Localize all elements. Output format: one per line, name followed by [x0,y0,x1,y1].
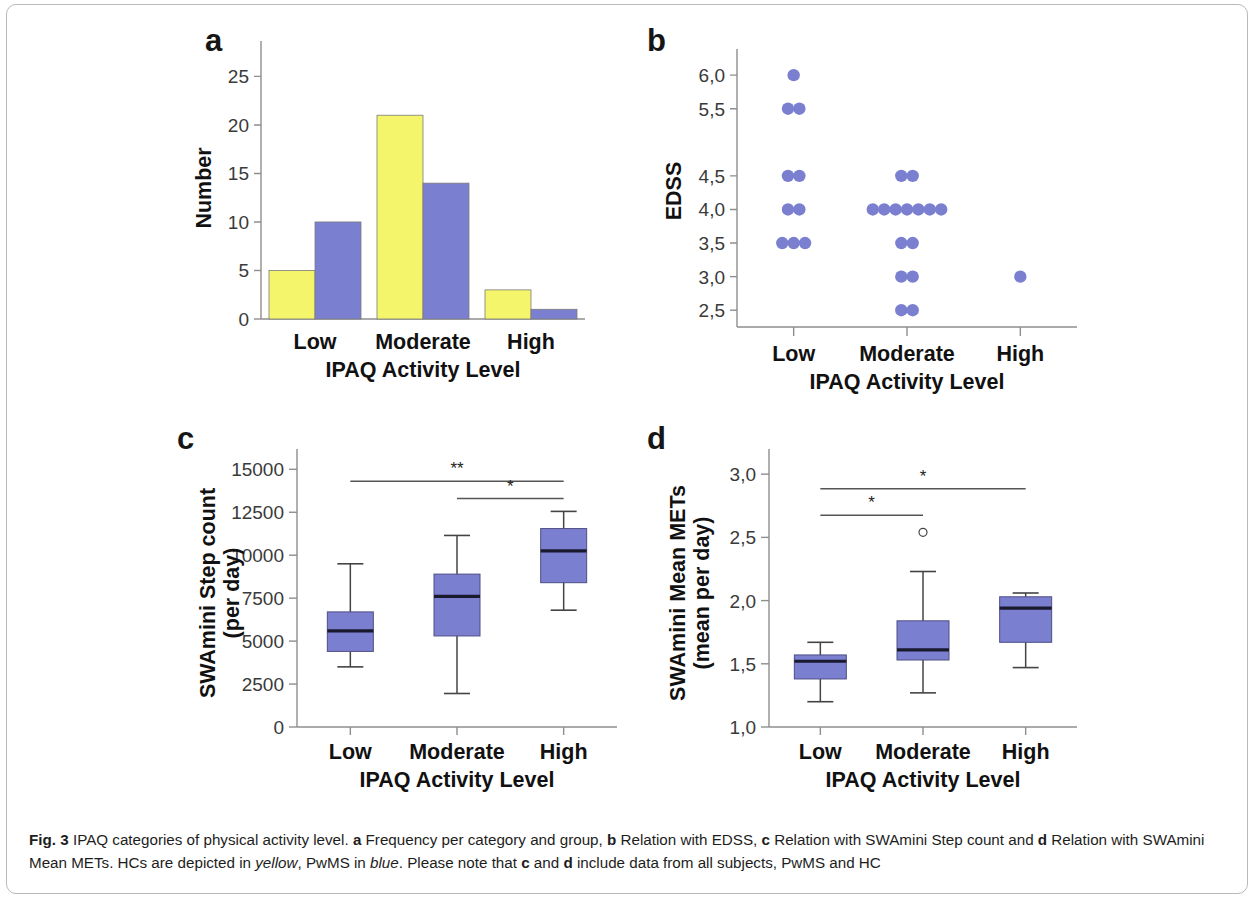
panel-b-dot [895,304,907,316]
panel-a-y-tick-label: 20 [228,115,249,136]
caption-text: IPAQ categories of physical activity lev… [29,831,1204,871]
panel-c-sig-marker-1: * [507,477,514,496]
panel-a-y-tick-label: 10 [228,212,249,233]
panel-b-y-tick-label: 6,0 [699,65,725,86]
panel-b-dot [793,203,805,215]
panel-b-dot [907,270,919,282]
panel-d-y-title-line2: (mean per day) [690,517,714,670]
panel-d-y-tick-label: 1,5 [730,654,756,675]
panel-b-y-tick-label: 4,0 [699,199,725,220]
panel-b-dot [895,237,907,249]
panel-b-dot [907,170,919,182]
caption-part-13: c [521,854,529,871]
panel-a-bar-pwms-high [531,309,577,319]
panel-c-box-moderate-rect [434,574,480,636]
panel-b-dot [793,103,805,115]
panel-c-y-tick-label: 15000 [231,459,284,480]
panel-d-cat-label-moderate: Moderate [875,740,971,764]
panel-a-cat-label-high: High [507,330,555,354]
caption-part-10: , PwMS in [297,854,370,871]
panel-b-x-title: IPAQ Activity Level [810,370,1005,394]
panel-b-dot [889,203,901,215]
caption-part-14: and [530,854,564,871]
panel-c-y-tick-label: 12500 [231,502,284,523]
panel-a-chart: 0510152025LowModerateHighIPAQ Activity L… [177,19,597,409]
panel-b-y-tick-label: 4,5 [699,166,725,187]
panel-b-dot [912,203,924,215]
panel-b-dot [878,203,890,215]
panel-c-y-title-line1: SWAmini Step count [196,488,220,698]
panel-d-sig-marker-0: * [920,467,927,486]
panel-d-y-tick-label: 1,0 [730,717,756,738]
caption-part-5: c [761,831,769,848]
panel-d-box-high-rect [1000,597,1052,643]
panel-b-dot [782,103,794,115]
caption-part-9: yellow [255,854,297,871]
panel-c-y-tick-label: 2500 [242,674,284,695]
panel-d-box-moderate-rect [897,621,949,660]
panel-d-cat-label-low: Low [799,740,842,764]
panel-d-y-tick-label: 2,5 [730,527,756,548]
panel-d-y-tick-label: 3,0 [730,464,756,485]
panel-b-letter: b [647,23,665,59]
figure-frame: a 0510152025LowModerateHighIPAQ Activity… [6,4,1248,894]
caption-part-0: IPAQ categories of physical activity lev… [73,831,353,848]
panel-a-bar-hc-low [269,270,315,319]
panel-b-dot [907,237,919,249]
panel-a-cat-label-low: Low [294,330,337,354]
caption-part-4: Relation with EDSS, [616,831,761,848]
panel-c-x-title: IPAQ Activity Level [360,768,555,792]
panel-b-y-title: EDSS [662,162,686,221]
panel-b-cat-label-moderate: Moderate [859,342,955,366]
panel-d-letter: d [647,421,665,457]
panel-b-dot [793,170,805,182]
panel-b-dot [895,270,907,282]
panel-b-dot [799,237,811,249]
caption-part-15: d [563,854,572,871]
panel-b-dot [787,237,799,249]
panel-a-y-tick-label: 25 [228,66,249,87]
panel-d-sig-marker-1: * [868,493,875,512]
panel-a-letter: a [205,23,222,59]
panel-d-box-moderate-outlier [919,528,927,536]
panel-c-cat-label-low: Low [329,740,372,764]
panel-b-dot [907,304,919,316]
panel-b-y-tick-label: 5,5 [699,99,725,120]
panel-b-dot [782,203,794,215]
panel-b-y-tick-label: 3,0 [699,267,725,288]
panel-b-dot [867,203,879,215]
panel-a-cat-label-moderate: Moderate [375,330,471,354]
panel-b-y-tick-label: 2,5 [699,300,725,321]
caption-part-11: blue [370,854,399,871]
panel-c-y-title-line2: (per day) [220,548,244,639]
panel-d-y-title-line1: SWAmini Mean METs [666,485,690,701]
panel-d-x-title: IPAQ Activity Level [826,768,1021,792]
panel-a-bar-pwms-low [315,222,361,319]
panel-d-chart: 1,01,52,02,53,0**LowModerateHighIPAQ Act… [647,415,1087,815]
panel-b-chart: 2,53,03,54,04,55,56,0LowModerateHighIPAQ… [637,19,1087,409]
figure-label: Fig. 3 [29,831,69,848]
panel-b-dot [895,170,907,182]
panel-b: b 2,53,03,54,04,55,56,0LowModerateHighIP… [637,19,1087,409]
caption-part-2: Frequency per category and group, [361,831,607,848]
panel-c-sig-marker-0: ** [450,459,464,478]
panel-a-bar-pwms-moderate [423,183,469,319]
panel-b-dot [924,203,936,215]
panel-c-y-tick-label: 5000 [242,631,284,652]
caption-part-3: b [607,831,616,848]
panel-c-cat-label-moderate: Moderate [409,740,505,764]
caption-part-12: . Please note that [399,854,521,871]
panel-c-cat-label-high: High [540,740,588,764]
panel-a-y-tick-label: 5 [238,260,249,281]
panel-d-y-tick-label: 2,0 [730,591,756,612]
panel-c-letter: c [177,421,194,457]
panel-c: c 0250050007500100001250015000***LowMode… [177,415,627,815]
panel-d: d 1,01,52,02,53,0**LowModerateHighIPAQ A… [647,415,1087,815]
panel-b-dot [787,69,799,81]
panel-b-dot [1014,270,1026,282]
panel-b-y-tick-label: 3,5 [699,233,725,254]
panel-c-y-tick-label: 0 [273,717,284,738]
panel-a-x-title: IPAQ Activity Level [326,358,521,382]
panel-c-box-high-rect [541,529,587,583]
caption-part-6: Relation with SWAmini Step count and [770,831,1038,848]
